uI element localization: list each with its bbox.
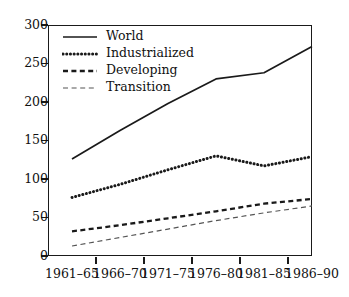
legend-label: World [106, 30, 144, 43]
legend-line-swatch-icon [62, 83, 98, 93]
legend-item-world[interactable]: World [62, 28, 212, 45]
legend-line-swatch-icon [62, 66, 98, 76]
series-line-developing [72, 199, 312, 231]
legend-label: Developing [106, 64, 177, 77]
legend-line-swatch-icon [62, 49, 98, 59]
series-line-industrialized [72, 156, 312, 198]
chart-legend: WorldIndustrializedDevelopingTransition [62, 28, 212, 96]
legend-label: Transition [106, 81, 171, 94]
legend-item-developing[interactable]: Developing [62, 62, 212, 79]
legend-line-swatch-icon [62, 32, 98, 42]
legend-item-industrialized[interactable]: Industrialized [62, 45, 212, 62]
legend-label: Industrialized [106, 47, 194, 60]
chart-figure: 050100150200250300 1961–651966–701971–75… [0, 0, 349, 297]
legend-item-transition[interactable]: Transition [62, 79, 212, 96]
